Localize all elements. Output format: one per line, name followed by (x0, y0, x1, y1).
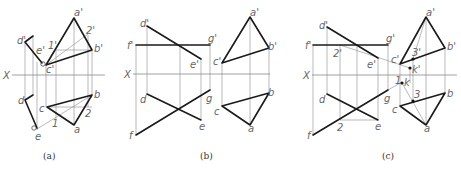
label-2: 2 (85, 108, 91, 119)
label-b-prime: b' (268, 41, 277, 52)
label-f: f (307, 130, 312, 141)
label-c-prime: c' (391, 54, 399, 65)
label-d-prime: d' (140, 18, 149, 29)
label-f-prime: f' (305, 40, 311, 51)
caption-b: (b) (200, 151, 213, 161)
label-d-prime: d' (319, 20, 328, 31)
label-a: a (248, 123, 254, 134)
label-a-prime: a' (250, 7, 259, 18)
label-a-prime: a' (74, 7, 83, 18)
label-e: e (35, 131, 41, 142)
caption-c: (c) (382, 151, 394, 161)
label-3: 3 (414, 89, 420, 100)
label-b-prime: b' (447, 41, 456, 52)
point-e-prime-marker (41, 62, 45, 66)
label-g: g (384, 93, 390, 104)
label-d-prime: d' (17, 35, 26, 46)
label-2-prime: 2' (86, 25, 95, 36)
label-e-prime: e' (36, 45, 45, 56)
label-1: 1 (52, 118, 58, 129)
label-d: d (319, 94, 326, 105)
label-a-prime: a' (426, 7, 435, 18)
label-2-prime: 2' (333, 48, 342, 59)
aux-line-e-b (37, 95, 92, 129)
label-c: c (39, 103, 45, 114)
label-a: a (424, 123, 430, 134)
label-e-prime: e' (367, 59, 376, 70)
line-de-top (327, 94, 378, 120)
label-2: 2 (337, 122, 343, 133)
label-c-prime: c' (46, 64, 54, 75)
label-g-prime: g' (208, 33, 217, 44)
label-b-prime: b' (94, 43, 103, 54)
label-c: c (214, 106, 220, 117)
triangle-abc-top (400, 93, 445, 125)
line-de-front (147, 26, 201, 59)
orthographic-projection-diagram: X a' b' c' d' e' 1' 2' a b c d e (0, 0, 461, 176)
panel-b: X d' e' f' g' d e f g a' b' c' a b c (b) (123, 7, 277, 161)
label-f: f (129, 130, 134, 141)
axis-label-a: X (2, 70, 11, 81)
label-g-prime: g' (386, 33, 395, 44)
line-de-top (147, 94, 201, 120)
label-3-prime: 3' (412, 47, 421, 58)
triangle-abc-front (400, 17, 445, 64)
edge-de-top (25, 95, 37, 128)
triangle-abc-front (222, 17, 269, 63)
label-d: d (140, 94, 147, 105)
panel-a: X a' b' c' d' e' 1' 2' a b c d e (2, 7, 105, 161)
label-e: e (375, 121, 381, 132)
label-c: c (392, 104, 398, 115)
label-g: g (206, 93, 212, 104)
label-e: e (199, 121, 205, 132)
label-d: d (18, 95, 25, 106)
triangle-abc-top (222, 93, 269, 125)
label-b: b (447, 88, 453, 99)
point-e-marker (32, 126, 36, 130)
label-f-prime: f' (127, 40, 133, 51)
label-b: b (268, 87, 274, 98)
axis-label-c: X (302, 70, 311, 81)
label-e-prime: e' (190, 59, 199, 70)
axis-label-b: X (123, 69, 132, 80)
label-a: a (74, 124, 80, 135)
label-1: 1 (395, 75, 401, 86)
label-b: b (94, 89, 100, 100)
label-1-prime: 1' (48, 40, 57, 51)
label-k-prime: k' (412, 64, 421, 75)
label-c-prime: c' (213, 56, 221, 67)
caption-a: (a) (43, 151, 55, 161)
panel-c: X d' e' f' g' 2' (302, 7, 457, 161)
